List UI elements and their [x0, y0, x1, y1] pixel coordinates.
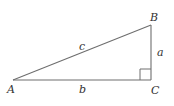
side-label-c: c [79, 40, 85, 53]
right-angle-marker [140, 69, 151, 80]
vertex-label-c: C [151, 84, 160, 97]
vertex-label-a: A [6, 83, 15, 96]
right-triangle-diagram: A B C a b c [0, 0, 174, 106]
vertex-label-b: B [149, 11, 158, 24]
side-label-a: a [157, 46, 164, 59]
side-label-b: b [79, 83, 86, 96]
